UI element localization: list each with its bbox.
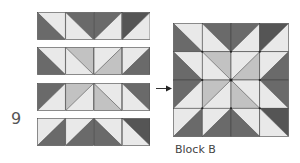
strip-3-cell-1 bbox=[38, 84, 66, 111]
strip-row-4 bbox=[37, 118, 150, 146]
block-cell-r2-c1 bbox=[174, 52, 203, 80]
block-cell-r3-c2 bbox=[202, 80, 231, 108]
block-cell-r2-c4 bbox=[260, 52, 289, 80]
block-cell-r3-c3 bbox=[231, 80, 260, 108]
strip-3-svg bbox=[37, 83, 150, 111]
strip-4-cell-1 bbox=[38, 119, 66, 146]
block-cell-r1-c2 bbox=[202, 24, 231, 52]
strip-4-cell-4 bbox=[122, 119, 150, 146]
strip-3-cell-3 bbox=[94, 84, 122, 111]
block-cell-r3-c1 bbox=[174, 80, 203, 108]
strip-2-cell-1 bbox=[38, 48, 66, 75]
strip-1-cell-4 bbox=[122, 13, 150, 40]
strip-1-cell-1 bbox=[38, 13, 66, 40]
strip-3-cell-4 bbox=[122, 84, 150, 111]
strip-3-cell-2 bbox=[66, 84, 94, 111]
block-cell-r3-c4 bbox=[260, 80, 289, 108]
block-cell-r4-c1 bbox=[174, 108, 203, 136]
step-number: 9 bbox=[11, 109, 21, 128]
strip-4-cell-2 bbox=[66, 119, 94, 146]
strip-1-svg bbox=[37, 12, 150, 40]
strip-2-cell-2 bbox=[66, 48, 94, 75]
arrow-right-icon bbox=[156, 77, 172, 96]
strip-2-cell-4 bbox=[122, 48, 150, 75]
strip-2-svg bbox=[37, 47, 150, 75]
strip-row-1 bbox=[37, 12, 150, 40]
strip-row-3 bbox=[37, 83, 150, 111]
block-caption: Block B bbox=[175, 143, 216, 156]
strip-2-cell-3 bbox=[94, 48, 122, 75]
strip-row-2 bbox=[37, 47, 150, 75]
block-cell-r4-c3 bbox=[231, 108, 260, 136]
block-cell-r2-c2 bbox=[202, 52, 231, 80]
block-b-assembled bbox=[173, 23, 289, 137]
block-cell-r4-c2 bbox=[202, 108, 231, 136]
block-cell-r1-c3 bbox=[231, 24, 260, 52]
block-cell-r1-c4 bbox=[260, 24, 289, 52]
strip-1-cell-3 bbox=[94, 13, 122, 40]
block-cell-r1-c1 bbox=[174, 24, 203, 52]
block-cell-r2-c3 bbox=[231, 52, 260, 80]
strip-4-cell-3 bbox=[94, 119, 122, 146]
block-b-svg bbox=[173, 23, 289, 137]
strip-1-cell-2 bbox=[66, 13, 94, 40]
block-cell-r4-c4 bbox=[260, 108, 289, 136]
strip-4-svg bbox=[37, 118, 150, 146]
